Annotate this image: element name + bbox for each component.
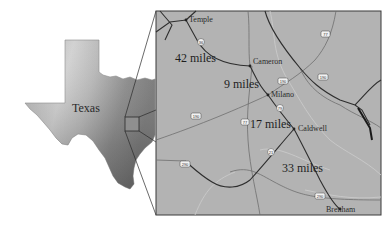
- city-label-temple: Temple: [189, 15, 213, 24]
- texas-state-shape: Texas: [25, 40, 155, 189]
- svg-text:190: 190: [193, 114, 200, 119]
- highway-shield-190-milano: 190: [278, 78, 288, 84]
- highway-shield-77-south: 77: [241, 119, 249, 125]
- svg-text:290: 290: [182, 162, 189, 167]
- svg-text:21: 21: [269, 150, 274, 155]
- distance-label-milano-caldwell: 17 miles: [250, 117, 291, 131]
- svg-text:290: 290: [317, 194, 324, 199]
- highway-shield-79: 79: [277, 105, 284, 112]
- highway-shield-21: 21: [268, 149, 275, 156]
- svg-text:77: 77: [323, 32, 328, 37]
- svg-text:190: 190: [320, 75, 327, 80]
- highway-shield-36: 36: [198, 39, 205, 46]
- svg-text:77: 77: [243, 120, 248, 125]
- texas-locator-map: Texas: [0, 0, 389, 228]
- highway-shield-77-north: 77: [321, 31, 330, 37]
- detail-map: Temple Cameron Milano Caldwell Brenham 4…: [156, 11, 381, 215]
- svg-text:190: 190: [280, 79, 287, 84]
- highway-shield-190-west: 190: [191, 113, 201, 119]
- city-label-milano: Milano: [271, 90, 294, 99]
- svg-text:36: 36: [199, 40, 204, 45]
- highway-shield-290-west: 290: [180, 161, 190, 167]
- city-label-brenham: Brenham: [326, 205, 356, 214]
- city-label-caldwell: Caldwell: [298, 124, 328, 133]
- city-label-cameron: Cameron: [253, 57, 282, 66]
- distance-label-cameron-milano: 9 miles: [224, 77, 259, 91]
- locator-box: [125, 117, 139, 131]
- highway-shield-190-east: 190: [318, 74, 328, 80]
- distance-label-caldwell-brenham: 33 miles: [282, 161, 323, 175]
- distance-label-temple-cameron: 42 miles: [175, 51, 216, 65]
- state-label-texas: Texas: [72, 101, 100, 115]
- highway-shield-290-east: 290: [315, 193, 325, 199]
- svg-text:79: 79: [278, 106, 283, 111]
